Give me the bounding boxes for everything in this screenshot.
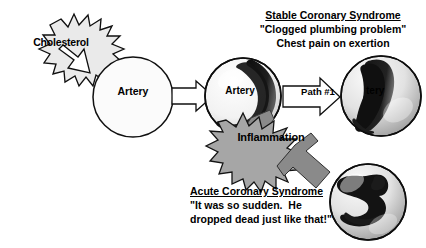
acute-callout-line-2: dropped dead just like that!" [190,213,340,227]
diagram-canvas: Cholesterol Artery Artery tery Path #1 I… [0,0,426,248]
stable-coronary-syndrome-callout: Stable Coronary Syndrome "Clogged plumbi… [258,9,408,51]
artery-normal-label: Artery [97,85,169,98]
acute-callout-heading: Acute Coronary Syndrome [190,185,340,199]
inflammation-label: Inflammation [218,131,324,144]
artery-stenotic-label: tery [366,85,412,97]
artery-plaque-label: Artery [210,85,270,97]
stable-callout-line-1: "Clogged plumbing problem" [258,23,408,37]
inflammation-burst [206,113,300,192]
artery-thrombus-circle [330,164,406,240]
stable-callout-line-2: Chest pain on exertion [258,37,408,51]
path-one-label: Path #1 [291,86,345,98]
cholesterol-label: Cholesterol [18,36,104,49]
acute-coronary-syndrome-callout: Acute Coronary Syndrome "It was so sudde… [190,185,340,227]
stable-callout-heading: Stable Coronary Syndrome [258,9,408,23]
acute-callout-line-1: "It was so sudden. He [190,199,340,213]
